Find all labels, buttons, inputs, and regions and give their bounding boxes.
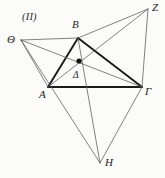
segment-h-b — [78, 38, 100, 163]
vertex-label-gamma: Γ — [145, 86, 151, 97]
segment-b-gamma — [78, 38, 142, 87]
segment-z-a — [48, 9, 148, 87]
segment-theta-a — [21, 40, 48, 87]
segment-z-gamma — [142, 9, 148, 87]
vertex-label-z: Z — [152, 2, 158, 13]
segment-layer — [21, 9, 148, 163]
segment-z-b — [78, 9, 148, 38]
segment-h-gamma — [100, 87, 142, 163]
segment-theta-h — [21, 40, 100, 163]
segment-theta-gamma — [21, 40, 142, 87]
geometry-figure: (II) Θ B Z A Γ H Δ — [0, 0, 165, 178]
vertex-label-theta: Θ — [7, 34, 15, 45]
figure-caption: (II) — [22, 12, 37, 23]
vertex-label-delta: Δ — [73, 71, 79, 81]
segment-theta-b — [21, 38, 78, 40]
centroid-dot — [76, 58, 81, 63]
point-layer — [76, 58, 81, 63]
vertex-label-h: H — [105, 157, 113, 168]
vertex-label-a: A — [39, 89, 46, 100]
vertex-label-b: B — [72, 19, 79, 30]
figure-canvas — [0, 0, 165, 178]
